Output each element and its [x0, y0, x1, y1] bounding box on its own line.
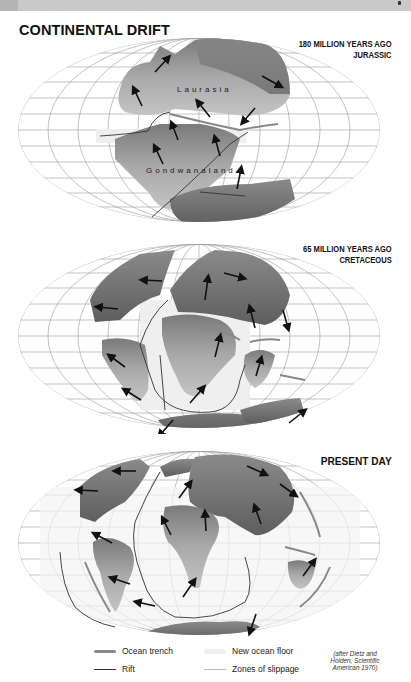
laurasia-label: Laurasia — [177, 85, 232, 94]
new-ocean-floor-swatch-icon — [204, 649, 226, 654]
credit-line: Holden, Scientific — [324, 657, 386, 664]
rift-swatch-icon — [94, 669, 116, 670]
legend-label: Rift — [122, 664, 135, 674]
banner-edge — [0, 0, 18, 11]
legend-label: New ocean floor — [232, 646, 293, 656]
era-period: JURASSIC — [299, 50, 392, 61]
legend-label: Ocean trench — [122, 646, 173, 656]
legend-label: Zones of slippage — [232, 664, 299, 674]
era-label-present-day: PRESENT DAY — [321, 455, 392, 468]
credit-line: (after Dietz and — [324, 650, 386, 657]
legend-item-rift: Rift — [94, 664, 135, 674]
zones-of-slippage-swatch-icon — [204, 669, 226, 670]
era-title: PRESENT DAY — [321, 455, 392, 468]
top-banner — [0, 0, 411, 11]
map-jurassic: Laurasia Gondwanaland — [0, 34, 411, 228]
legend-item-ocean-trench: Ocean trench — [94, 646, 173, 656]
gondwanaland-label: Gondwanaland — [146, 166, 236, 175]
map-cretaceous — [0, 240, 411, 434]
era-label-jurassic: 180 MILLION YEARS AGO JURASSIC — [299, 39, 392, 60]
ocean-trench-swatch-icon — [94, 650, 116, 653]
credit-line: American 1970) — [324, 664, 386, 671]
era-title: 180 MILLION YEARS AGO — [299, 39, 392, 50]
banner-mark — [398, 1, 401, 5]
source-credit: (after Dietz and Holden, Scientific Amer… — [324, 650, 386, 672]
era-period: CRETACEOUS — [303, 255, 392, 266]
legend-item-new-ocean-floor: New ocean floor — [204, 646, 293, 656]
map-present-day — [0, 447, 411, 641]
era-title: 65 MILLION YEARS AGO — [303, 244, 392, 255]
legend-item-zones-of-slippage: Zones of slippage — [204, 664, 299, 674]
era-label-cretaceous: 65 MILLION YEARS AGO CRETACEOUS — [303, 244, 392, 265]
